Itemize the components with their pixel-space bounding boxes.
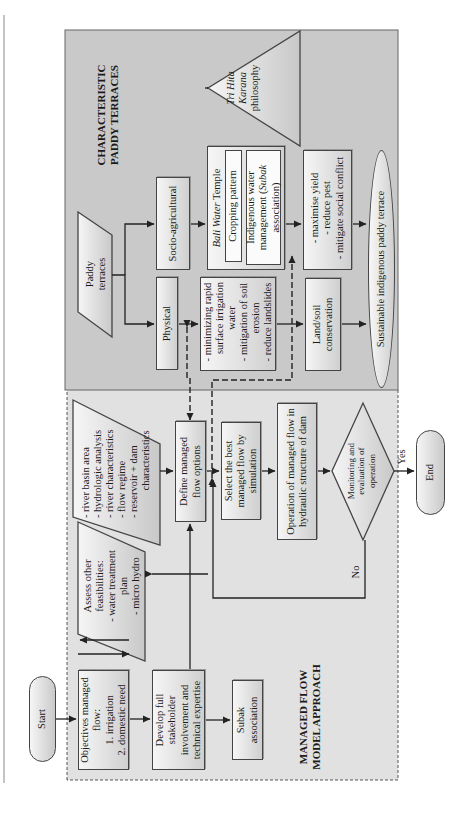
yes-label: Yes <box>396 447 408 467</box>
end-label: End <box>424 464 436 481</box>
text-part: management ( <box>257 190 268 250</box>
node-text: Monitoring and <box>346 426 356 516</box>
node-text: Indigenous water <box>245 171 257 244</box>
maximise-node[interactable]: - maximise yield - reduce pest - mitigat… <box>303 150 352 270</box>
text-part: Subak <box>257 165 268 191</box>
node-text: Assess other <box>82 536 94 636</box>
node-text: Sustainable indigenous paddy terrace <box>375 191 387 348</box>
physical-node[interactable]: Physical <box>156 277 178 370</box>
node-text: philosophy <box>249 48 261 128</box>
title-line: PADDY TERRACES <box>108 55 121 175</box>
node-text: - reduce pest <box>321 181 333 235</box>
node-text: - minimizing rapid <box>202 283 214 362</box>
paddy-region-title: CHARACTERISTIC PADDY TERRACES <box>95 55 120 175</box>
bali-title: Bali Water Temple <box>211 169 223 248</box>
node-text: Objectives managed <box>79 677 91 762</box>
node-text: Define managed <box>178 437 190 506</box>
monitoring-node[interactable]: Monitoring and evaluation of operation <box>346 426 377 516</box>
node-text: Karana <box>237 48 249 128</box>
node-text: - maximise yield <box>309 173 321 244</box>
node-text: Operation of managed flow in <box>285 408 297 535</box>
node-text: management (Subak <box>257 165 269 250</box>
assess-node[interactable]: Assess other feasibilities: - water trea… <box>82 536 142 636</box>
node-text: hydraulic structure of dam <box>297 416 309 527</box>
node-text: - micro hydro <box>130 536 142 636</box>
objectives-node[interactable]: Objectives managed flow: 1. irrigation 2… <box>78 670 129 770</box>
no-label: No <box>350 562 362 582</box>
node-text: - river basin area <box>80 403 92 518</box>
node-text: managed flow by <box>235 435 247 508</box>
bali-rest: Temple <box>211 169 222 203</box>
tri-hita-karana-node[interactable]: Tri Hita Karana philosophy <box>225 48 261 128</box>
node-text: evaluation of <box>356 426 366 516</box>
node-text: - water treatment <box>106 536 118 636</box>
indigenous-water-node[interactable]: Indigenous water management (Subak assoc… <box>246 150 281 265</box>
node-text: simulation <box>247 449 259 493</box>
node-text: - flow regime <box>116 403 128 518</box>
node-text: - reservoir + dam <box>128 403 140 518</box>
managed-region-title: MANAGED FLOW MODEL APPROACH <box>297 657 322 777</box>
node-text: water <box>226 306 238 337</box>
river-node[interactable]: - river basin area - hydrologic analysis… <box>80 403 152 518</box>
land-soil-node[interactable]: Land/soil conservation <box>305 278 341 371</box>
node-text: association) <box>270 182 282 232</box>
define-node[interactable]: Define managed flow options <box>175 421 206 522</box>
title-line: MANAGED FLOW <box>297 657 310 777</box>
subak-node[interactable]: Subak association <box>232 680 263 760</box>
node-text: - hydrologic analysis <box>92 403 104 518</box>
operation-node[interactable]: Operation of managed flow in hydraulic s… <box>277 403 317 540</box>
cropping-pattern-node[interactable]: Cropping pattern <box>225 150 242 262</box>
node-text: characteristics <box>140 403 152 518</box>
node-text: flow options <box>191 445 203 498</box>
node-text: - river characteristics <box>104 403 116 518</box>
node-text: - mitigation of soil <box>238 283 250 361</box>
bali-italic: Bali Water <box>211 202 222 247</box>
sustainable-node[interactable]: Sustainable indigenous paddy terrace <box>368 150 395 388</box>
node-text: erosion <box>250 303 262 342</box>
minimizing-node[interactable]: - minimizing rapid surface irrigation wa… <box>200 277 276 371</box>
node-text: - reduce landslides <box>262 283 274 362</box>
paddy-node[interactable]: Paddy terraces <box>84 239 108 309</box>
node-text: Tri Hita <box>225 48 237 128</box>
node-text: Develop full <box>154 694 166 747</box>
node-text: plan <box>118 536 130 636</box>
node-text: technical expertise <box>191 681 203 759</box>
node-text: Select the best <box>223 441 235 502</box>
node-text: stakeholder <box>166 696 178 744</box>
node-text: flow: <box>91 709 103 731</box>
node-text: association <box>248 697 260 744</box>
select-node[interactable]: Select the best managed flow by simulati… <box>221 422 261 520</box>
node-text: surface irrigation <box>214 282 226 362</box>
node-text: Subak <box>235 707 247 733</box>
node-text: Cropping pattern <box>227 170 239 241</box>
node-text: 1. irrigation <box>104 695 116 745</box>
node-text: Physical <box>161 306 173 342</box>
start-label: Start <box>36 709 48 729</box>
node-text: - mitigate social conflict <box>334 157 346 259</box>
socio-agricultural-node[interactable]: Socio-agricultural <box>156 177 190 270</box>
node-text: Land/soil <box>311 305 323 345</box>
node-text: conservation <box>323 298 335 352</box>
node-text: 2. domestic need <box>116 685 128 756</box>
node-text: Socio-agricultural <box>167 186 179 262</box>
node-text: Paddy <box>84 239 96 309</box>
node-text: involvement and <box>179 685 191 755</box>
title-line: CHARACTERISTIC <box>95 55 108 175</box>
node-text: operation <box>367 426 377 516</box>
title-line: MODEL APPROACH <box>310 657 323 777</box>
end-node[interactable]: End <box>416 430 445 515</box>
develop-node[interactable]: Develop full stakeholder involvement and… <box>152 670 205 770</box>
node-text: feasibilities: <box>94 536 106 636</box>
start-node[interactable]: Start <box>29 676 56 762</box>
flowchart-canvas: CHARACTERISTIC PADDY TERRACES MANAGED FL… <box>0 0 454 814</box>
node-text: terraces <box>96 239 108 309</box>
